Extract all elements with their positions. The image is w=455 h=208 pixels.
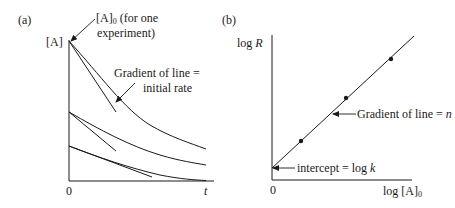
best-fit-line — [272, 36, 414, 168]
data-point — [389, 57, 393, 61]
panel-a-tag: (a) — [18, 14, 31, 27]
tangent-2 — [69, 112, 116, 151]
decay-curve-3 — [69, 146, 206, 181]
panel-b-origin-label: 0 — [270, 184, 276, 197]
annotation-gradient-a-line1: Gradient of line = — [114, 67, 200, 80]
panel-a-y-axis-label: [A] — [46, 36, 63, 49]
panel-b-y-axis-label: log R — [237, 37, 263, 50]
panel-a-curves — [69, 41, 206, 181]
panel-a-axes — [69, 40, 214, 181]
panel-a-tangents — [69, 41, 152, 177]
decay-curve-1 — [69, 41, 206, 149]
annotation-intercept: intercept = log k — [297, 162, 375, 175]
arrow-initial-conc — [71, 19, 95, 41]
panel-a-origin-label: 0 — [66, 185, 72, 198]
panel-b-tag: (b) — [222, 14, 236, 27]
diagram-canvas — [0, 0, 455, 208]
annotation-gradient-a-line2: initial rate — [143, 82, 192, 95]
decay-curve-2 — [69, 112, 206, 165]
data-point — [344, 96, 348, 100]
data-point — [299, 139, 303, 143]
annotation-gradient-n: Gradient of line = n — [357, 108, 452, 121]
annotation-initial-conc-line2: experiment) — [97, 27, 155, 40]
panel-b-x-axis-label: log [A]0 — [383, 185, 422, 198]
annotation-initial-conc: [A]0 (for one — [96, 12, 158, 25]
tangent-3 — [69, 146, 152, 177]
panel-a-x-axis-label: t — [204, 185, 207, 198]
tangent-1 — [69, 41, 116, 112]
arrow-initial-rate — [116, 83, 135, 102]
